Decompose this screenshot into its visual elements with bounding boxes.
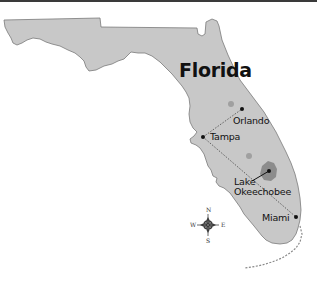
compass-rose-icon (197, 214, 219, 236)
compass-east-label: E (221, 222, 225, 228)
florida-map (0, 0, 317, 294)
city-label-orlando: Orlando (233, 116, 269, 126)
lake-label-line2: Okeechobee (234, 187, 291, 197)
orlando-marker (240, 107, 244, 111)
compass-west-label: W (190, 222, 196, 228)
tampa-marker (201, 135, 205, 139)
florida-landmass (4, 18, 301, 244)
city-label-tampa: Tampa (210, 132, 240, 142)
lake-small-1 (228, 101, 234, 107)
map-title: Florida (179, 61, 252, 80)
compass-south-label: S (206, 238, 210, 244)
lake-small-2 (246, 153, 252, 159)
miami-marker (294, 215, 298, 219)
compass-north-label: N (206, 207, 211, 213)
lake-okeechobee-marker (267, 169, 271, 173)
city-label-miami: Miami (262, 213, 290, 223)
